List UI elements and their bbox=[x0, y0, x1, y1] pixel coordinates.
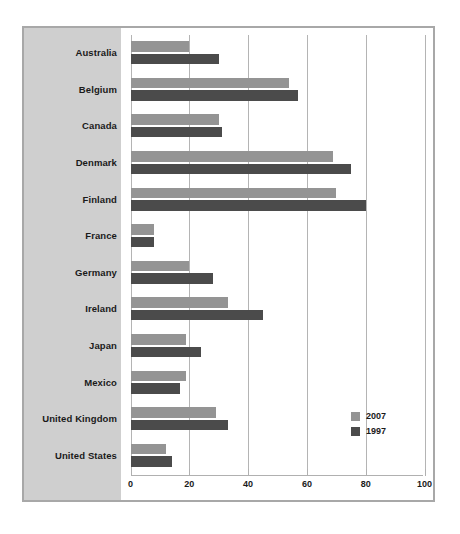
legend-label: 2007 bbox=[366, 412, 386, 421]
bars-wrapper bbox=[131, 333, 434, 359]
bar-group-row: Australia bbox=[24, 35, 433, 72]
bar-2007 bbox=[131, 188, 337, 199]
bar-1997 bbox=[131, 237, 155, 248]
bar-2007 bbox=[131, 334, 187, 345]
bar-1997 bbox=[131, 54, 219, 65]
x-tick-label: 80 bbox=[361, 480, 371, 489]
bars-wrapper bbox=[131, 443, 434, 469]
legend-swatch-icon bbox=[351, 427, 360, 436]
bar-1997 bbox=[131, 383, 181, 394]
bar-2007 bbox=[131, 78, 290, 89]
bar-1997 bbox=[131, 90, 299, 101]
category-label: Australia bbox=[25, 49, 117, 59]
bar-chart-figure: AustraliaBelgiumCanadaDenmarkFinlandFran… bbox=[22, 26, 435, 502]
category-label: Ireland bbox=[25, 305, 117, 315]
bar-1997 bbox=[131, 164, 352, 175]
legend-label: 1997 bbox=[366, 427, 386, 436]
bar-group-row: France bbox=[24, 218, 433, 255]
category-label: United Kingdom bbox=[25, 414, 117, 424]
category-label: Germany bbox=[25, 268, 117, 278]
legend-entry: 2007 bbox=[351, 412, 386, 421]
bars-wrapper bbox=[131, 260, 434, 286]
bar-group-row: Ireland bbox=[24, 291, 433, 328]
category-label: Finland bbox=[25, 195, 117, 205]
bar-group-row: United States bbox=[24, 438, 433, 475]
bar-2007 bbox=[131, 261, 190, 272]
bar-2007 bbox=[131, 407, 216, 418]
bars-wrapper bbox=[131, 187, 434, 213]
bar-group-row: Denmark bbox=[24, 145, 433, 182]
bar-2007 bbox=[131, 224, 155, 235]
category-label: Denmark bbox=[25, 158, 117, 168]
bar-2007 bbox=[131, 371, 187, 382]
tick-mark-60 bbox=[307, 469, 308, 476]
bar-2007 bbox=[131, 444, 166, 455]
bars-wrapper bbox=[131, 150, 434, 176]
tick-mark-80 bbox=[366, 469, 367, 476]
x-tick-label: 40 bbox=[243, 480, 253, 489]
tick-mark-0 bbox=[131, 469, 132, 476]
bar-1997 bbox=[131, 347, 202, 358]
bar-1997 bbox=[131, 420, 228, 431]
bars-wrapper bbox=[131, 406, 434, 432]
bars-wrapper bbox=[131, 77, 434, 103]
category-label: Japan bbox=[25, 341, 117, 351]
tick-mark-20 bbox=[189, 469, 190, 476]
bar-1997 bbox=[131, 456, 172, 467]
chart-legend: 20071997 bbox=[351, 412, 386, 442]
bar-group-row: Belgium bbox=[24, 72, 433, 109]
bar-2007 bbox=[131, 41, 190, 52]
category-label: Canada bbox=[25, 122, 117, 132]
bars-wrapper bbox=[131, 370, 434, 396]
category-label: France bbox=[25, 232, 117, 242]
bars-wrapper bbox=[131, 113, 434, 139]
bars-wrapper bbox=[131, 40, 434, 66]
legend-swatch-icon bbox=[351, 412, 360, 421]
bar-group-row: Mexico bbox=[24, 364, 433, 401]
category-label: Mexico bbox=[25, 378, 117, 388]
x-tick-label: 20 bbox=[184, 480, 194, 489]
tick-mark-40 bbox=[248, 469, 249, 476]
bar-1997 bbox=[131, 127, 222, 138]
bar-2007 bbox=[131, 114, 219, 125]
bar-group-row: Japan bbox=[24, 328, 433, 365]
tick-mark-100 bbox=[425, 469, 426, 476]
x-tick-label: 0 bbox=[128, 480, 133, 489]
category-label: United States bbox=[25, 451, 117, 461]
bars-wrapper bbox=[131, 223, 434, 249]
legend-entry: 1997 bbox=[351, 427, 386, 436]
bars-wrapper bbox=[131, 296, 434, 322]
bar-1997 bbox=[131, 200, 366, 211]
bar-1997 bbox=[131, 273, 213, 284]
category-label: Belgium bbox=[25, 85, 117, 95]
bar-group-row: Canada bbox=[24, 108, 433, 145]
x-tick-label: 100 bbox=[417, 480, 432, 489]
x-tick-label: 60 bbox=[302, 480, 312, 489]
bar-2007 bbox=[131, 297, 228, 308]
bar-group-row: Finland bbox=[24, 181, 433, 218]
bar-2007 bbox=[131, 151, 334, 162]
bar-1997 bbox=[131, 310, 263, 321]
bar-group-row: Germany bbox=[24, 255, 433, 292]
x-axis-line bbox=[131, 475, 424, 476]
bar-rows-layer: AustraliaBelgiumCanadaDenmarkFinlandFran… bbox=[24, 35, 433, 475]
